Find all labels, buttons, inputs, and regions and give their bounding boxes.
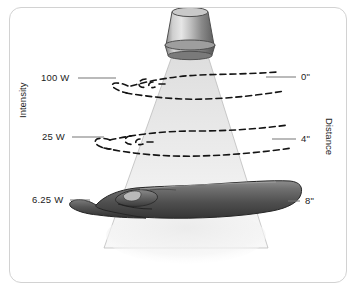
distance-label-8in: 8": [305, 196, 314, 206]
intensity-label-625w: 6.25 W: [32, 195, 63, 205]
intensity-axis-title: Intensity: [18, 83, 28, 118]
diagram-canvas: [0, 0, 356, 291]
distance-axis-title: Distance: [325, 118, 335, 155]
intensity-label-100w: 100 W: [41, 73, 69, 83]
intensity-label-25w: 25 W: [42, 132, 65, 142]
distance-label-4in: 4": [301, 134, 310, 144]
inverse-square-law-figure: 100 W 25 W 6.25 W 0" 4" 8" Intensity Dis…: [0, 0, 356, 291]
lamp-icon: [165, 7, 215, 59]
distance-label-0in: 0": [301, 72, 310, 82]
solid-arm-8in: [70, 181, 302, 219]
